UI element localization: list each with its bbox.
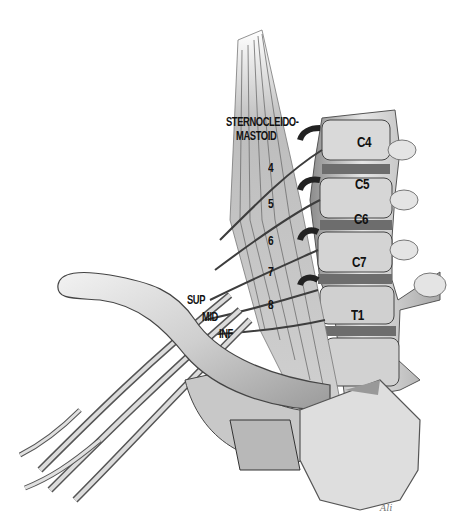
vertebra-label-c6: C6 bbox=[354, 211, 368, 226]
nerve-root-label-7: 7 bbox=[268, 265, 273, 278]
vertebra-label-c5: C5 bbox=[355, 176, 369, 191]
nerve-root-label-4: 4 bbox=[268, 161, 273, 174]
artist-signature: Ali bbox=[380, 503, 392, 513]
illustration-drawing bbox=[0, 0, 462, 532]
scalene-label-middle: MID bbox=[202, 311, 218, 323]
sternocleidomastoid-label-line2: MASTOID bbox=[236, 130, 276, 142]
vertebra-label-c7: C7 bbox=[352, 254, 366, 269]
anatomy-illustration: STERNOCLEIDO- MASTOID C4 C5 C6 C7 T1 4 5… bbox=[0, 0, 462, 532]
sternocleidomastoid-label-line1: STERNOCLEIDO- bbox=[226, 116, 298, 128]
nerve-root-label-6: 6 bbox=[268, 234, 273, 247]
nerve-root-label-8: 8 bbox=[268, 298, 273, 311]
vertebra-label-c4: C4 bbox=[357, 134, 371, 149]
scalene-label-inferior: INF bbox=[219, 328, 233, 340]
scalene-label-superior: SUP bbox=[187, 294, 205, 306]
sternocleidomastoid-label: STERNOCLEIDO- bbox=[226, 116, 298, 128]
vertebra-label-t1: T1 bbox=[351, 307, 364, 322]
nerve-root-label-5: 5 bbox=[268, 197, 273, 210]
